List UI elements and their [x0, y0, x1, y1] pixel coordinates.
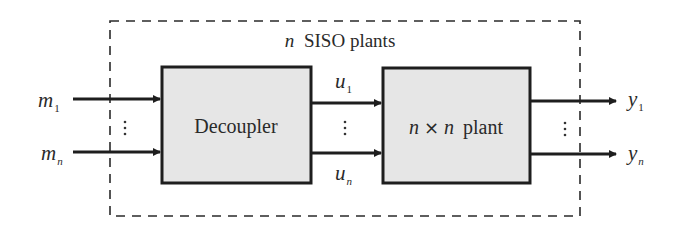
input-label-mn: mn: [41, 141, 63, 167]
plant-label-var1: n: [409, 116, 419, 138]
plant-block: n × n plant: [383, 68, 530, 183]
ellipsis-intermediate-icon: [344, 121, 347, 136]
plant-label: n × n plant: [409, 116, 504, 139]
input-label-m1: m1: [38, 88, 60, 114]
enclosure-title: n SISO plants: [285, 30, 396, 51]
enclosure-title-text: SISO plants: [304, 30, 395, 51]
output-label-yn: yn: [626, 141, 644, 167]
enclosure-title-var: n: [285, 30, 295, 51]
decoupler-block: Decoupler: [162, 67, 311, 183]
block-diagram: n SISO plants Decoupler n × n plant m1 m…: [0, 0, 680, 231]
intermediate-label-u1: u1: [335, 69, 352, 95]
plant-label-text: plant: [463, 116, 503, 139]
plant-label-var2: n: [444, 116, 454, 138]
decoupler-label: Decoupler: [194, 115, 278, 138]
plant-label-times: ×: [424, 117, 439, 138]
ellipsis-inputs-icon: [124, 121, 127, 136]
intermediate-label-un: un: [335, 161, 353, 187]
output-label-y1: y1: [626, 87, 644, 113]
ellipsis-outputs-icon: [564, 122, 567, 137]
